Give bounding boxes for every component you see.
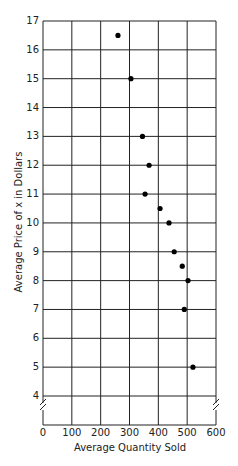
x-tick: 600: [206, 427, 225, 438]
data-point: [115, 33, 120, 38]
y-tick: 6: [33, 332, 39, 343]
data-point: [172, 249, 177, 254]
y-tick-labels: 4567891011121314151617: [26, 15, 39, 401]
data-point: [157, 206, 162, 211]
data-point: [142, 191, 147, 196]
y-tick: 11: [26, 188, 39, 199]
grid: [39, 21, 220, 425]
data-points: [115, 33, 195, 370]
y-tick: 15: [26, 73, 39, 84]
y-tick: 16: [26, 44, 39, 55]
y-tick: 14: [26, 102, 39, 113]
y-tick: 10: [26, 217, 39, 228]
x-tick: 400: [149, 427, 168, 438]
x-tick: 300: [120, 427, 139, 438]
x-tick: 500: [178, 427, 197, 438]
y-tick: 5: [33, 361, 39, 372]
y-tick: 13: [26, 130, 39, 141]
x-axis-label: Average Quantity Sold: [74, 442, 186, 453]
y-tick: 7: [33, 303, 39, 314]
y-tick: 8: [33, 275, 39, 286]
data-point: [128, 76, 133, 81]
data-point: [166, 220, 171, 225]
x-tick: 100: [62, 427, 81, 438]
x-tick-labels: 0100200300400500600: [40, 427, 226, 438]
x-tick: 0: [40, 427, 46, 438]
y-tick: 17: [26, 15, 39, 26]
x-tick: 200: [91, 427, 110, 438]
scatter-chart: 4567891011121314151617 01002003004005006…: [0, 0, 238, 466]
data-point: [180, 264, 185, 269]
data-point: [140, 134, 145, 139]
data-point: [190, 365, 195, 370]
y-axis-label: Average Price of x in Dollars: [13, 152, 24, 293]
y-tick: 9: [33, 246, 39, 257]
data-point: [185, 278, 190, 283]
data-point: [147, 163, 152, 168]
y-tick: 4: [33, 390, 39, 401]
data-point: [182, 307, 187, 312]
y-tick: 12: [26, 159, 39, 170]
